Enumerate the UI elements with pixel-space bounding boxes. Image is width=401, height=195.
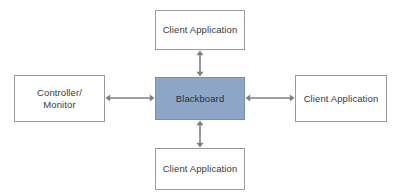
node-label: Client Application: [163, 24, 238, 36]
node-blackboard: Blackboard: [155, 77, 245, 120]
node-client-application-top: Client Application: [155, 10, 245, 50]
node-controller-monitor: Controller/ Monitor: [14, 75, 105, 122]
connector-center-to-top: [193, 50, 207, 77]
connector-center-to-bottom: [193, 120, 207, 148]
node-client-application-right: Client Application: [295, 75, 387, 122]
blackboard-architecture-diagram: Client Application Controller/ Monitor B…: [0, 0, 401, 195]
node-client-application-bottom: Client Application: [155, 148, 245, 190]
connector-center-to-right: [245, 91, 295, 105]
node-label: Blackboard: [176, 93, 225, 105]
node-label: Client Application: [304, 93, 379, 105]
connector-center-to-left: [105, 91, 155, 105]
node-label: Controller/ Monitor: [37, 87, 82, 111]
node-label: Client Application: [163, 163, 238, 175]
